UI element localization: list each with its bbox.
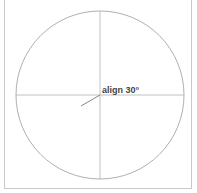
circle-diagram: align 30° bbox=[0, 0, 197, 193]
angle-label: align 30° bbox=[102, 85, 140, 95]
angle-pointer bbox=[81, 95, 100, 106]
